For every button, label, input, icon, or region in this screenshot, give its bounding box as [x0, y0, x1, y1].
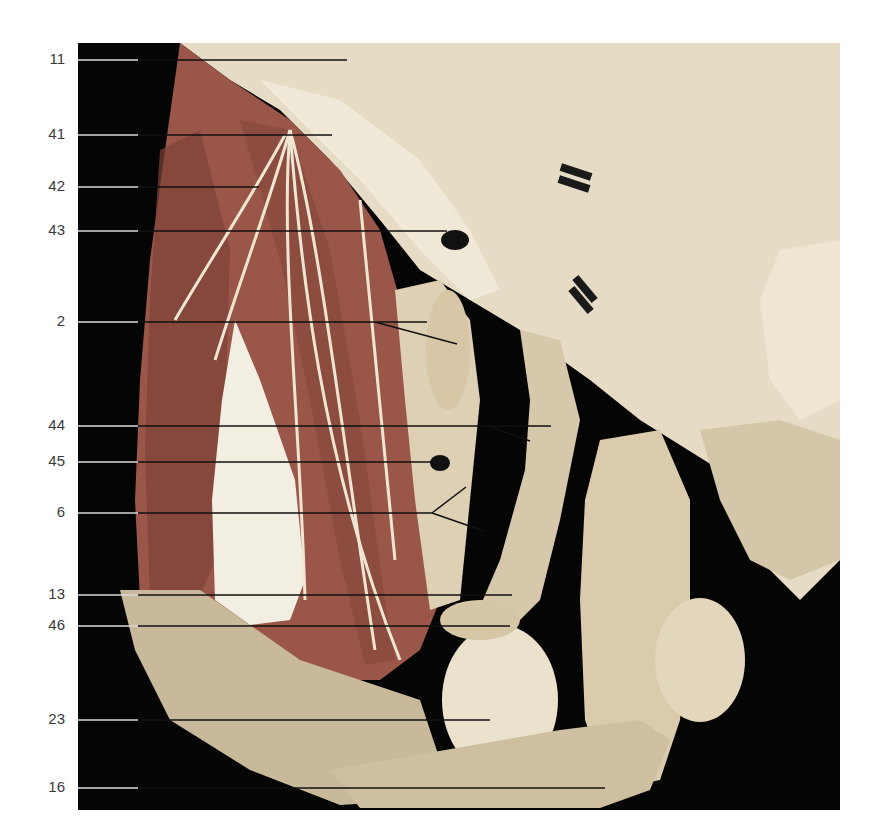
label-13: 13 [25, 586, 65, 602]
label-23: 23 [25, 711, 65, 727]
label-11: 11 [25, 51, 65, 67]
label-16: 16 [25, 779, 65, 795]
femoral-vein [426, 290, 470, 410]
label-6: 6 [25, 504, 65, 520]
testis-right [655, 598, 745, 722]
label-41: 41 [25, 126, 65, 142]
label-45: 45 [25, 453, 65, 469]
label-46: 46 [25, 617, 65, 633]
label-44: 44 [25, 417, 65, 433]
femoral-ring-opening [430, 455, 450, 471]
label-43: 43 [25, 222, 65, 238]
label-42: 42 [25, 178, 65, 194]
anatomy-plate [0, 0, 883, 837]
saphenous-opening [441, 230, 469, 250]
epididymis [440, 600, 520, 640]
label-2: 2 [25, 313, 65, 329]
